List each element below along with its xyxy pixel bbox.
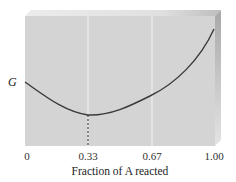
x-tick-0: 0	[24, 150, 30, 162]
x-tick-0.33: 0.33	[78, 150, 98, 162]
x-tick-0.67: 0.67	[142, 150, 162, 162]
panel-bevel-right	[215, 10, 221, 146]
plot-panel	[25, 16, 215, 146]
panel-bevel-top	[25, 10, 221, 16]
chart-canvas: G 0 0.33 0.67 1.00 Fraction of A reacted	[0, 0, 236, 182]
y-axis-label: G	[8, 75, 17, 89]
x-tick-1.00: 1.00	[204, 150, 224, 162]
x-axis-label: Fraction of A reacted	[72, 165, 169, 177]
